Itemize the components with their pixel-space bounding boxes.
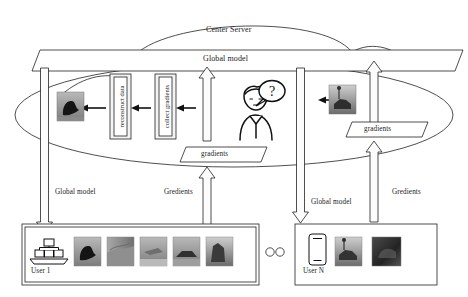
channel-label-gredients-left: Gredients <box>164 189 193 196</box>
image-bird-dark-reconstructed <box>57 92 84 121</box>
user1-label: User 1 <box>31 268 51 275</box>
image-landscape-gray <box>107 237 134 266</box>
center-server-label: Center Server <box>206 26 252 34</box>
image-horse-rider-leaked <box>329 85 356 114</box>
collect-gradients-label: collect gradients <box>163 77 170 137</box>
image-horse-rider <box>335 237 362 266</box>
channel-label-global-model-right: Global model <box>311 199 352 206</box>
gradients-tag-right-label: gradients <box>364 126 391 133</box>
image-dark-scene <box>372 237 401 266</box>
image-plane-sky <box>140 237 167 266</box>
image-horse-field <box>206 237 233 266</box>
thumbnail-layer <box>0 0 468 297</box>
image-truck-road <box>173 237 200 266</box>
channel-label-gredients-right: Gredients <box>392 189 421 196</box>
usern-label: User N <box>303 268 324 275</box>
diagram-canvas: ? <box>0 0 468 297</box>
image-bird-dark <box>74 237 101 266</box>
global-model-banner-label: Global model <box>203 55 248 63</box>
reconstruct-data-label: reconstruct data <box>118 77 125 137</box>
gradients-tag-center-label: gradients <box>201 151 228 158</box>
channel-label-global-model-left: Global model <box>55 189 96 196</box>
